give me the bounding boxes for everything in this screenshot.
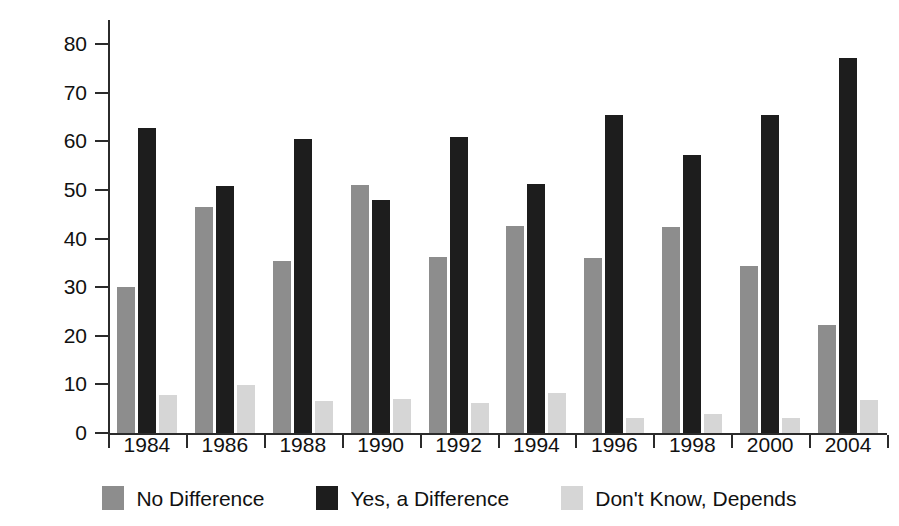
bar — [662, 227, 680, 433]
bar — [372, 200, 390, 433]
bar-chart: Percentage 01020304050607080 19841986198… — [0, 0, 899, 526]
x-tick-label: 1998 — [647, 433, 737, 457]
x-tick-label: 1984 — [102, 433, 192, 457]
bar — [294, 139, 312, 433]
bar — [429, 257, 447, 433]
bar — [138, 128, 156, 433]
bar — [195, 207, 213, 433]
bar — [315, 401, 333, 433]
y-tick-label: 70 — [41, 82, 87, 103]
x-tick-label: 2000 — [725, 433, 815, 457]
bar — [761, 115, 779, 433]
bar — [839, 58, 857, 433]
legend-item: Yes, a Difference — [316, 486, 509, 510]
bar — [450, 137, 468, 433]
y-tick-label: 60 — [41, 130, 87, 151]
y-tick — [95, 189, 108, 191]
bar — [605, 115, 623, 433]
y-tick — [95, 140, 108, 142]
y-tick — [95, 335, 108, 337]
bar — [117, 287, 135, 433]
bar — [471, 403, 489, 433]
bar — [351, 185, 369, 433]
bar — [159, 395, 177, 433]
y-tick — [95, 92, 108, 94]
legend-label: No Difference — [136, 488, 264, 509]
bar — [740, 266, 758, 433]
y-tick — [95, 286, 108, 288]
legend-swatch-icon — [561, 486, 583, 510]
legend-swatch-icon — [316, 486, 338, 510]
legend-item: Don't Know, Depends — [561, 486, 796, 510]
x-tick-label: 1990 — [336, 433, 426, 457]
bar — [860, 400, 878, 433]
x-tick-label: 1988 — [258, 433, 348, 457]
bar — [393, 399, 411, 433]
y-tick-label: 80 — [41, 33, 87, 54]
y-tick-label: 40 — [41, 228, 87, 249]
bar — [704, 414, 722, 433]
x-tick-label: 1992 — [414, 433, 504, 457]
legend-label: Don't Know, Depends — [595, 488, 796, 509]
legend-label: Yes, a Difference — [350, 488, 509, 509]
bar — [273, 261, 291, 433]
bar — [237, 385, 255, 433]
bar — [683, 155, 701, 433]
x-tick-label: 1996 — [569, 433, 659, 457]
legend-item: No Difference — [102, 486, 264, 510]
y-tick-label: 50 — [41, 179, 87, 200]
y-tick-label: 20 — [41, 325, 87, 346]
plot-area — [108, 20, 887, 433]
x-tick-label: 1994 — [491, 433, 581, 457]
y-tick — [95, 383, 108, 385]
y-tick — [95, 43, 108, 45]
y-tick-label: 10 — [41, 373, 87, 394]
y-axis-line — [108, 20, 110, 433]
x-tick-label: 1986 — [180, 433, 270, 457]
bar — [584, 258, 602, 433]
chart-legend: No DifferenceYes, a DifferenceDon't Know… — [0, 478, 899, 518]
bar — [626, 418, 644, 433]
bar — [818, 325, 836, 433]
x-tick-label: 2004 — [803, 433, 893, 457]
y-tick-label: 30 — [41, 276, 87, 297]
legend-swatch-icon — [102, 486, 124, 510]
bar — [506, 226, 524, 433]
bar — [548, 393, 566, 433]
y-tick-label: 0 — [41, 422, 87, 443]
bar — [527, 184, 545, 433]
bar — [782, 418, 800, 433]
y-tick — [95, 238, 108, 240]
bar — [216, 186, 234, 433]
